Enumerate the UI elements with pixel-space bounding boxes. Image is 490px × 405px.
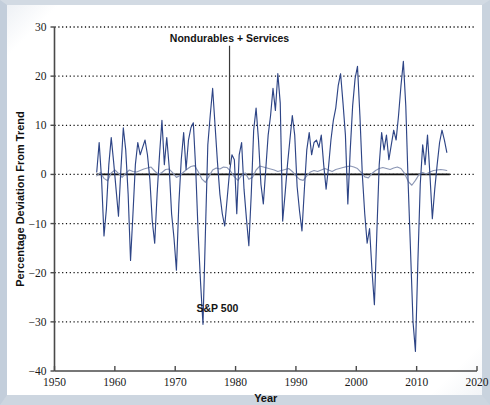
y-tick-label: 0 bbox=[41, 168, 47, 180]
y-tick-label: 20 bbox=[35, 70, 47, 82]
y-tick-label: −30 bbox=[29, 316, 47, 328]
y-ticks-group: 3020100−10−20−30−40 bbox=[29, 21, 55, 377]
chart-container: 3020100−10−20−30−40 19501960197019801990… bbox=[7, 5, 490, 405]
x-ticks-group: 19501960197019801990200020102020 bbox=[43, 366, 489, 388]
y-tick-label: −10 bbox=[29, 218, 47, 230]
x-tick-label: 2020 bbox=[466, 376, 489, 388]
y-tick-label: 30 bbox=[35, 21, 47, 33]
deviation-from-trend-chart: 3020100−10−20−30−40 19501960197019801990… bbox=[7, 5, 490, 405]
x-tick-label: 1960 bbox=[103, 376, 126, 388]
chart-annotation-label: S&P 500 bbox=[197, 302, 239, 314]
figure-page: 3020100−10−20−30−40 19501960197019801990… bbox=[0, 0, 490, 405]
x-tick-label: 1980 bbox=[224, 376, 247, 388]
x-tick-label: 1970 bbox=[164, 376, 187, 388]
series-line-sp500 bbox=[97, 61, 447, 351]
x-tick-label: 2010 bbox=[405, 376, 428, 388]
x-tick-label: 2000 bbox=[345, 376, 368, 388]
chart-annotation-label: Nondurables + Services bbox=[170, 32, 290, 44]
x-axis-title: Year bbox=[254, 392, 278, 404]
y-axis-title: Percentage Deviation From Trend bbox=[14, 111, 26, 286]
y-tick-label: −20 bbox=[29, 267, 47, 279]
x-tick-label: 1950 bbox=[43, 376, 66, 388]
y-tick-label: 10 bbox=[35, 119, 47, 131]
x-tick-label: 1990 bbox=[284, 376, 307, 388]
